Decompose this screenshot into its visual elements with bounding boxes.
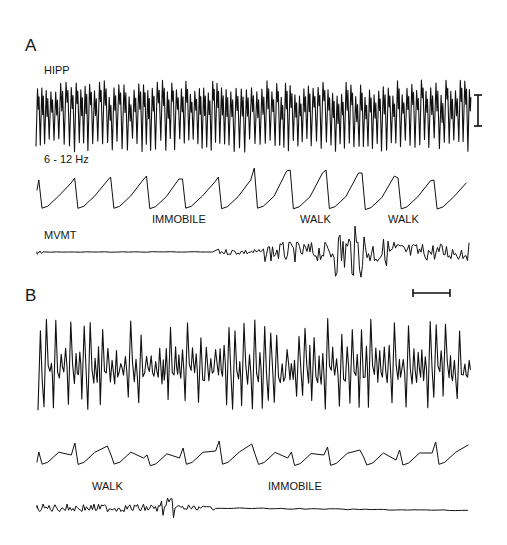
time-scale-bar <box>413 289 450 297</box>
amplitude-scale-bar <box>474 95 482 126</box>
theta-trace-b <box>37 441 468 466</box>
movement-trace-a <box>37 226 469 277</box>
hipp-trace-b <box>38 319 470 410</box>
theta-trace-a <box>37 168 466 210</box>
hipp-trace-a <box>36 80 471 152</box>
movement-trace-b <box>37 498 468 517</box>
eeg-traces-figure <box>0 0 507 545</box>
